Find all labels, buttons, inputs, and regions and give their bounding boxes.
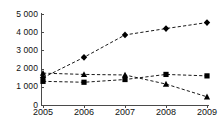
- y-tick-label: 1 000: [2, 82, 38, 91]
- y-tick-label: 5 000: [2, 10, 38, 19]
- x-tick-label: 2007: [108, 107, 142, 118]
- data-point-marker: [40, 79, 45, 84]
- y-tick-mark: [41, 69, 44, 70]
- y-tick-mark: [41, 50, 44, 51]
- y-tick-mark: [41, 87, 44, 88]
- data-point-marker: [81, 80, 86, 85]
- line-chart: 01 0002 0003 0004 0005 000 2005200620072…: [0, 0, 220, 120]
- x-tick-mark: [207, 105, 208, 108]
- x-tick-label: 2006: [67, 107, 101, 118]
- y-tick-label: 4 000: [2, 28, 38, 37]
- data-point-marker: [81, 54, 87, 61]
- series-triangle: [40, 70, 210, 99]
- series-line: [43, 23, 207, 78]
- data-point-marker: [204, 19, 210, 26]
- x-tick-mark: [125, 105, 126, 108]
- x-tick-label: 2009: [190, 107, 220, 118]
- y-tick-mark: [41, 32, 44, 33]
- data-point-marker: [204, 73, 209, 78]
- data-point-marker: [122, 77, 127, 82]
- data-point-marker: [163, 72, 168, 77]
- data-point-marker: [122, 32, 128, 39]
- x-tick-mark: [43, 105, 44, 108]
- plot-area: [42, 14, 208, 105]
- x-tick-mark: [84, 105, 85, 108]
- y-tick-mark: [41, 14, 44, 15]
- x-tick-mark: [166, 105, 167, 108]
- data-point-marker: [122, 72, 128, 78]
- series-layer: [42, 14, 208, 105]
- y-axis-tick-labels: 01 0002 0003 0004 0005 000: [0, 0, 38, 120]
- y-tick-label: 3 000: [2, 46, 38, 55]
- x-tick-label: 2005: [26, 107, 60, 118]
- data-point-marker: [163, 25, 169, 32]
- x-tick-label: 2008: [149, 107, 183, 118]
- y-tick-label: 2 000: [2, 64, 38, 73]
